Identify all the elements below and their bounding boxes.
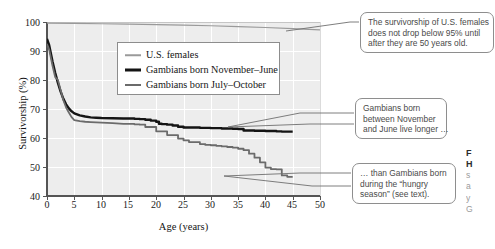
- callout-line: during the “hungry: [360, 179, 449, 190]
- caption-fragment-line: s: [466, 170, 495, 181]
- x-tick-label: 25: [173, 199, 193, 210]
- legend-line-icon-us-females: [125, 49, 141, 61]
- y-tick-label: 100: [16, 17, 40, 28]
- legend-line-icon-gambians-nov-june: [125, 64, 141, 76]
- x-tick-label: 10: [91, 199, 111, 210]
- x-tick-label: 35: [228, 199, 248, 210]
- y-axis-title: Survivorship (%): [17, 54, 28, 174]
- callout-gambians-nov-june: Gambians born between November and June …: [355, 98, 447, 139]
- callout-gambians-july-oct: … than Gambians born during the “hungry …: [352, 163, 456, 204]
- callout-line: season” (see text).: [360, 189, 449, 200]
- x-tick-label: 30: [200, 199, 220, 210]
- callout-line: Gambians born: [363, 103, 440, 114]
- caption-fragment-line: H: [466, 159, 495, 170]
- legend-label: Gambians born November–June: [146, 64, 278, 76]
- legend-label: Gambians born July–October: [146, 79, 266, 91]
- legend-label: U.S. females: [146, 49, 198, 61]
- caption-fragment-line: a: [466, 181, 495, 192]
- callout-us-females: The survivorship of U.S. females does no…: [360, 12, 494, 53]
- callout-line: and June live longer …: [363, 124, 440, 135]
- x-tick-label: 20: [146, 199, 166, 210]
- callout-line: between November: [363, 114, 440, 125]
- x-tick-label: 40: [255, 199, 275, 210]
- survivorship-figure: 100 90 80 70 60 50 40 0 5 10 15 20 25 30…: [0, 0, 495, 249]
- legend-item-gambians-july-oct: Gambians born July–October: [125, 78, 279, 92]
- x-tick-label: 15: [118, 199, 138, 210]
- figure-caption-fragment: F H s a y G: [466, 148, 495, 238]
- caption-fragment-line: y: [466, 193, 495, 204]
- caption-fragment-line: G: [466, 204, 495, 215]
- chart-legend: U.S. females Gambians born November–June…: [117, 42, 280, 95]
- legend-item-gambians-nov-june: Gambians born November–June: [125, 63, 279, 77]
- x-tick-label: 0: [37, 199, 57, 210]
- x-axis-title: Age (years): [47, 221, 320, 232]
- callout-line: … than Gambians born: [360, 168, 449, 179]
- legend-item-us-females: U.S. females: [125, 48, 279, 62]
- legend-line-icon-gambians-july-oct: [125, 79, 141, 91]
- callout-line: The survivorship of U.S. females: [368, 17, 487, 28]
- callout-line: after they are 50 years old.: [368, 38, 487, 49]
- caption-fragment-line: F: [466, 148, 495, 159]
- x-tick-label: 50: [310, 199, 330, 210]
- x-tick-label: 5: [64, 199, 84, 210]
- x-tick-label: 45: [282, 199, 302, 210]
- callout-line: does not drop below 95% until: [368, 28, 487, 39]
